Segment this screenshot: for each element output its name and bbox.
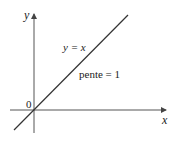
y-axis-label: y [23, 8, 30, 22]
slope-label: pente = 1 [79, 68, 120, 80]
chart: y x 0 y = x pente = 1 [0, 0, 180, 149]
x-axis-label: x [161, 113, 168, 127]
origin-label: 0 [26, 98, 32, 110]
line-label: y = x [62, 41, 86, 53]
